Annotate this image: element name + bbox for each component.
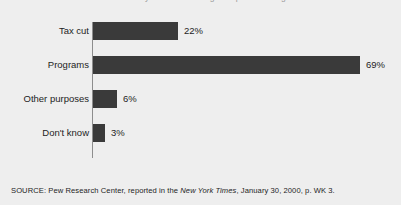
bar-programs [93, 56, 360, 74]
table-row: Other purposes 6% [0, 90, 401, 124]
bar-group-dont-know: 3% [93, 124, 125, 142]
source-publication-name: New York Times [180, 186, 236, 195]
chart-title-text: Where do you think the budget surplus sh… [0, 0, 401, 3]
bar-tax-cut [93, 22, 178, 40]
bar-other-purposes [93, 90, 117, 108]
value-label-dont-know: 3% [111, 124, 125, 142]
plot-area: Tax cut 22% Programs 69% Other purposes … [0, 14, 401, 164]
category-label-dont-know: Don't know [42, 124, 89, 142]
table-row: Tax cut 22% [0, 22, 401, 56]
category-label-other-purposes: Other purposes [24, 90, 89, 108]
bar-group-programs: 69% [93, 56, 385, 74]
chart-title-clipped: Where do you think the budget surplus sh… [0, 0, 401, 3]
source-note: SOURCE: Pew Research Center, reported in… [11, 186, 335, 195]
category-label-tax-cut: Tax cut [59, 22, 89, 40]
table-row: Don't know 3% [0, 124, 401, 158]
source-suffix-text: , January 30, 2000, p. WK 3. [236, 186, 334, 195]
source-prefix-text: SOURCE: Pew Research Center, reported in… [11, 186, 180, 195]
value-label-programs: 69% [366, 56, 385, 74]
bar-group-tax-cut: 22% [93, 22, 203, 40]
table-row: Programs 69% [0, 56, 401, 90]
bar-dont-know [93, 124, 105, 142]
bar-group-other-purposes: 6% [93, 90, 137, 108]
value-label-other-purposes: 6% [123, 90, 137, 108]
survey-bar-chart-figure: Where do you think the budget surplus sh… [0, 0, 401, 205]
category-label-programs: Programs [48, 56, 89, 74]
value-label-tax-cut: 22% [184, 22, 203, 40]
bar-rows: Tax cut 22% Programs 69% Other purposes … [0, 22, 401, 158]
